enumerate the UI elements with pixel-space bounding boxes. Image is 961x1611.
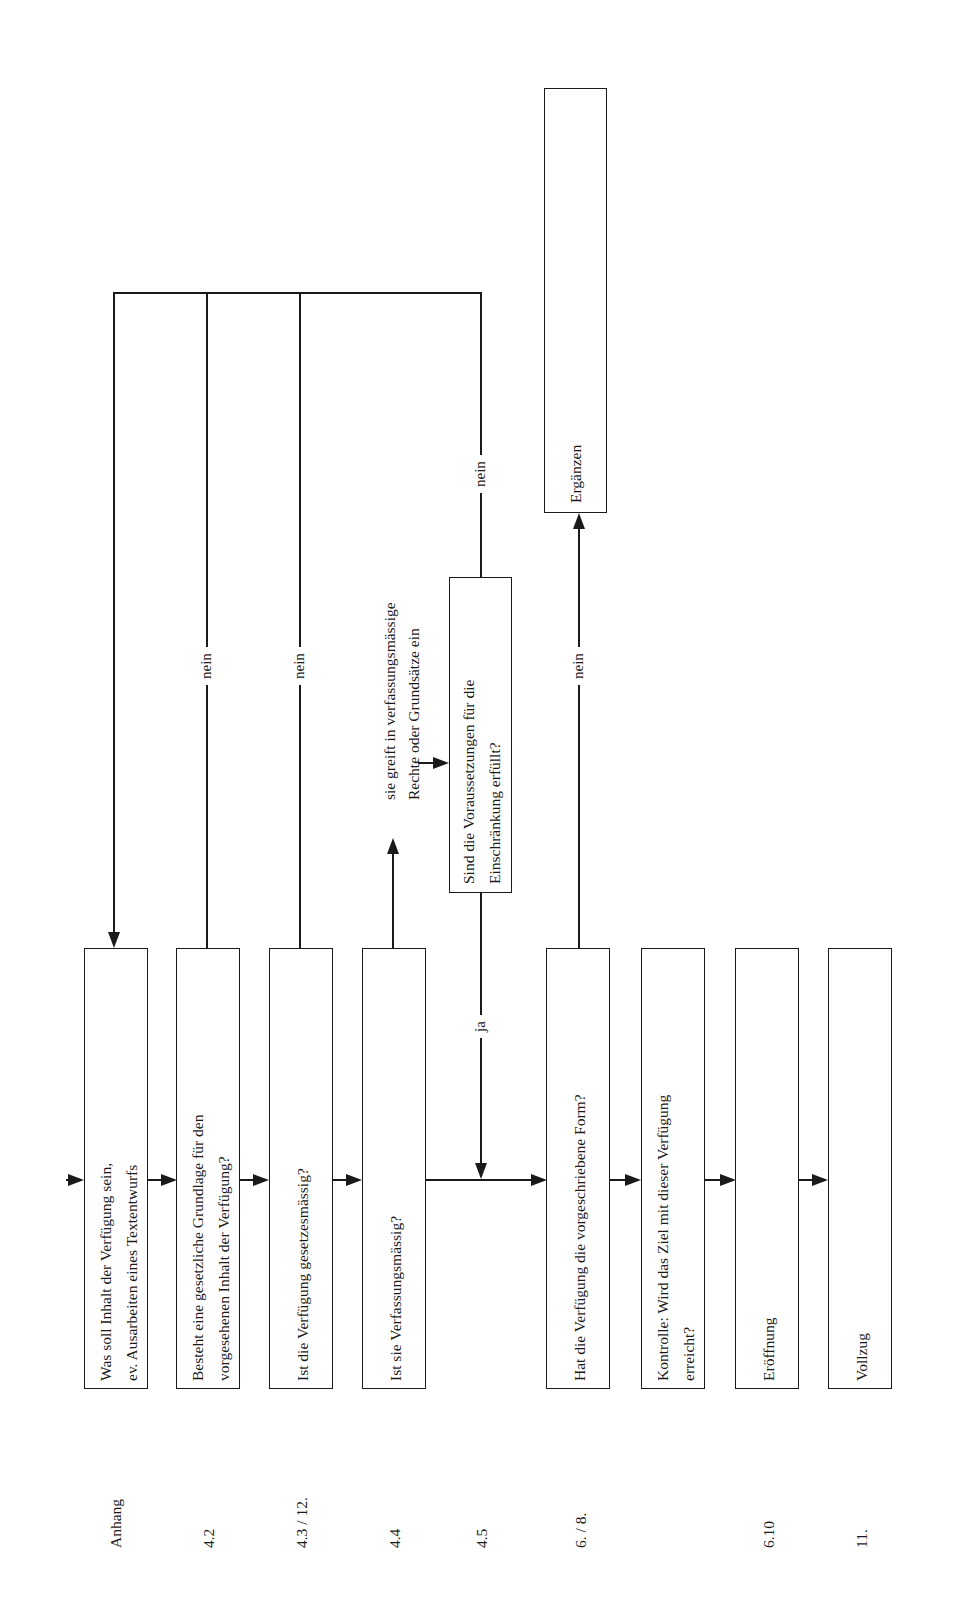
ref-label: 4.4 [386,1529,404,1548]
flow-arrow-line-6 [610,1179,626,1181]
voraussetzungen-in-line [418,762,434,764]
arrow-right-icon [253,1174,269,1186]
ergaenzen-box: Ergänzen [544,88,607,513]
step-box-eroeffnung: Eröffnung [735,948,799,1389]
entry-arrow-icon [68,1174,84,1186]
ref-label: 4.2 [200,1529,218,1548]
annotation-text: sie greift in verfassungsmässige [378,530,402,800]
nein-line-step2 [206,292,208,948]
arrow-up-icon [387,838,399,854]
nein-label: nein [471,455,489,493]
step-text: erreicht? [676,961,702,1381]
return-line-to-step1 [113,292,115,932]
ref-label: Anhang [107,1499,125,1548]
step-box-vollzug: Vollzug [828,948,892,1389]
nein-line-step3 [299,292,301,948]
step-box-kontrolle: Kontrolle: Wird das Ziel mit dieser Verf… [641,948,705,1389]
nein-label: nein [569,647,587,685]
step-box-inhalt: Was soll Inhalt der Verfügung sein, ev. … [84,948,148,1389]
annotation-text: Rechte oder Grundsätze ein [402,530,426,800]
flow-arrow-line-7 [705,1179,721,1181]
ref-label: 4.5 [473,1529,491,1548]
nein-label: nein [197,647,215,685]
flow-arrow-line-3 [333,1179,347,1181]
nein-line-voraussetzungen [480,292,482,577]
flow-arrow-line-2 [240,1179,254,1181]
ja-label: ja [471,1015,489,1038]
return-line-top [113,292,481,294]
step-text: Hat die Verfügung die vorgeschriebene Fo… [567,961,593,1381]
flow-line-4-6 [426,1179,532,1181]
flow-arrow-line-8 [799,1179,813,1181]
step-box-verfassungsmaessig: Ist sie Verfassungsmässig? [362,948,426,1389]
step-text: vorgesehenen Inhalt der Verfügung? [211,961,237,1381]
step-text: Ist sie Verfassungsmässig? [383,961,409,1381]
arrow-right-icon [720,1174,736,1186]
box-text: Sind die Voraussetzungen für die [456,584,482,884]
arrow-down-icon [108,932,120,948]
arrow-right-icon [625,1174,641,1186]
box-text: Ergänzen [563,93,589,503]
arrow-right-icon [433,757,449,769]
voraussetzungen-box: Sind die Voraussetzungen für die Einschr… [449,577,512,893]
step-box-form: Hat die Verfügung die vorgeschriebene Fo… [546,948,610,1389]
ref-label: 6.10 [760,1521,778,1548]
arrow-right-icon [531,1174,547,1186]
box-text: Einschränkung erfüllt? [482,584,508,884]
step-text: Vollzug [849,961,875,1381]
step-text: Eröffnung [756,961,782,1381]
ref-label: 4.3 / 12. [293,1497,311,1548]
arrow-right-icon [346,1174,362,1186]
step-text: Was soll Inhalt der Verfügung sein, [93,961,119,1381]
ref-label: 6. / 8. [572,1513,590,1548]
arrow-down-icon [475,1163,487,1179]
arrow-up-icon [573,513,585,529]
step-text: Kontrolle: Wird das Ziel mit dieser Verf… [650,961,676,1381]
nein-label: nein [290,647,308,685]
arrow-right-icon [161,1174,177,1186]
nein-line-form [578,528,580,948]
arrow-right-icon [812,1174,828,1186]
eingriff-annotation: sie greift in verfassungsmässige Rechte … [378,530,426,800]
step-box-gesetzesmaessig: Ist die Verfügung gesetzesmässig? [269,948,333,1389]
eingriff-line [392,852,394,948]
step-text: Ist die Verfügung gesetzesmässig? [290,961,316,1381]
flow-arrow-line-1 [148,1179,162,1181]
step-text: Besteht eine gesetzliche Grundlage für d… [185,961,211,1381]
step-box-grundlage: Besteht eine gesetzliche Grundlage für d… [176,948,240,1389]
ref-label: 11. [853,1529,871,1548]
step-text: ev. Ausarbeiten eines Textentwurfs [119,961,145,1381]
